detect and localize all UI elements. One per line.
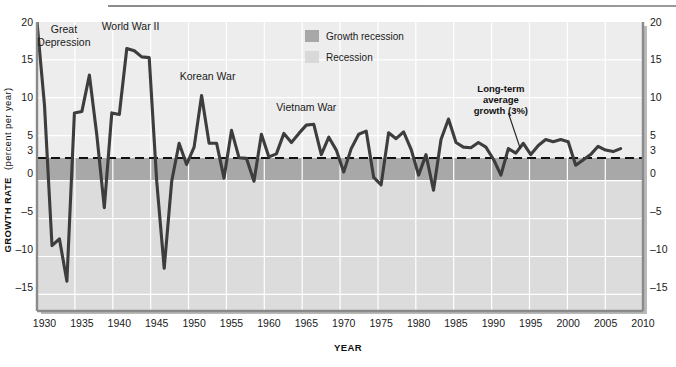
y-tick-label-left: –15 (15, 281, 33, 293)
y-tick-label-left: 5 (27, 129, 33, 141)
x-tick-label: 1955 (220, 317, 244, 329)
x-tick-label: 1960 (257, 317, 281, 329)
y-axis-title-units: (percent per year) (2, 87, 13, 170)
y-tick-label-left: –10 (15, 243, 33, 255)
y-axis-ticks-right: 201510530–5–10–15 (650, 16, 668, 293)
x-tick-label: 1990 (482, 317, 506, 329)
annotation-line: Depression (37, 36, 90, 48)
y-tick-label-right: –5 (650, 205, 662, 217)
y-tick-label-right: 10 (650, 91, 662, 103)
y-tick-label-right: 5 (650, 129, 656, 141)
x-tick-label: 2010 (631, 317, 655, 329)
y-tick-label-left: 20 (21, 16, 33, 28)
y-tick-label-right: 3 (650, 144, 656, 156)
legend-label-recession: Recession (326, 52, 373, 63)
y-tick-label-left: 15 (21, 53, 33, 65)
legend-label-growth-recession: Growth recession (326, 31, 404, 42)
y-tick-label-right: 15 (650, 53, 662, 65)
growth-recession-swatch (305, 30, 319, 42)
x-axis-ticks: 1930193519401945195019551960196519701975… (33, 317, 655, 329)
x-tick-label: 1930 (33, 317, 57, 329)
annotation-line: Great (51, 23, 77, 35)
y-tick-label-left: 0 (27, 167, 33, 179)
x-tick-label: 1950 (182, 317, 206, 329)
growth-rate-chart-svg: 201510530–5–10–15 201510530–5–10–15 1930… (0, 0, 676, 367)
x-axis-title: YEAR (334, 342, 362, 353)
annotation-vietnam-war: Vietnam War (276, 101, 337, 113)
y-tick-label-left: 10 (21, 91, 33, 103)
x-tick-label: 1985 (444, 317, 468, 329)
x-tick-label: 2005 (594, 317, 618, 329)
annotation-line: growth (3%) (474, 105, 528, 116)
x-tick-label: 1975 (369, 317, 393, 329)
y-tick-label-right: 20 (650, 16, 662, 28)
annotation-line: Vietnam War (276, 101, 337, 113)
recession-swatch (305, 51, 319, 63)
svg-text:GROWTH RATE (percent p: GROWTH RATE (percent per year) (2, 87, 13, 252)
x-tick-label: 1970 (332, 317, 356, 329)
annotation-line: Long-term (477, 83, 524, 94)
y-axis-ticks-left: 201510530–5–10–15 (15, 16, 33, 293)
y-axis-title-main: GROWTH RATE (2, 177, 13, 252)
x-tick-label: 1995 (519, 317, 543, 329)
x-tick-label: 2000 (557, 317, 581, 329)
chart-figure: 201510530–5–10–15 201510530–5–10–15 1930… (0, 0, 676, 367)
x-tick-label: 1980 (407, 317, 431, 329)
y-axis-title: GROWTH RATE (percent per year) (2, 87, 13, 252)
x-tick-label: 1965 (295, 317, 319, 329)
annotation-world-war-ii: World War II (102, 20, 160, 32)
x-tick-label: 1935 (70, 317, 94, 329)
y-tick-label-right: –10 (650, 243, 668, 255)
x-tick-label: 1940 (108, 317, 132, 329)
y-tick-label-left: –5 (21, 205, 33, 217)
x-tick-label: 1945 (145, 317, 169, 329)
y-tick-label-right: 0 (650, 167, 656, 179)
y-tick-label-right: –15 (650, 281, 668, 293)
annotation-line: average (483, 94, 519, 105)
annotation-line: Korean War (180, 70, 236, 82)
annotation-line: World War II (102, 20, 160, 32)
annotation-korean-war: Korean War (180, 70, 236, 82)
y-tick-label-left: 3 (27, 144, 33, 156)
